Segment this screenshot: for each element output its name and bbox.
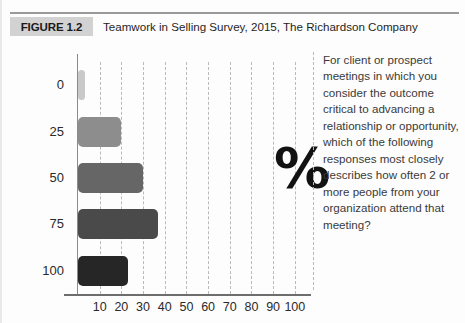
chart-area: % 0255075100 102030405060708090100 bbox=[2, 48, 312, 306]
bar-75 bbox=[78, 209, 158, 239]
y-tick-25: 25 bbox=[14, 125, 64, 138]
y-tick-0: 0 bbox=[14, 78, 64, 91]
bar-0 bbox=[78, 70, 85, 100]
header-rule bbox=[10, 12, 459, 14]
y-tick-50: 50 bbox=[14, 171, 64, 184]
bar-100 bbox=[78, 256, 128, 286]
figure-title: Teamwork in Selling Survey, 2015, The Ri… bbox=[103, 17, 418, 36]
x-axis-line bbox=[64, 294, 311, 296]
gridline-60 bbox=[208, 62, 209, 294]
survey-question-text: For client or prospect meetings in which… bbox=[323, 52, 459, 233]
gridline-80 bbox=[251, 62, 252, 294]
x-tick-100: 100 bbox=[280, 300, 310, 314]
gridline-40 bbox=[165, 62, 166, 294]
bar-25 bbox=[78, 117, 121, 147]
figure-header: FIGURE 1.2 Teamwork in Selling Survey, 2… bbox=[2, 12, 465, 38]
percent-symbol: % bbox=[274, 140, 328, 196]
gridline-70 bbox=[230, 62, 231, 294]
figure-number-badge: FIGURE 1.2 bbox=[10, 17, 93, 36]
y-tick-100: 100 bbox=[14, 264, 64, 277]
gridline-50 bbox=[186, 62, 187, 294]
y-tick-75: 75 bbox=[14, 217, 64, 230]
panel-divider bbox=[313, 52, 314, 290]
bar-50 bbox=[78, 163, 143, 193]
gridline-30 bbox=[143, 62, 144, 294]
figure-container: FIGURE 1.2 Teamwork in Selling Survey, 2… bbox=[0, 0, 465, 323]
plot-region: % bbox=[78, 62, 310, 294]
